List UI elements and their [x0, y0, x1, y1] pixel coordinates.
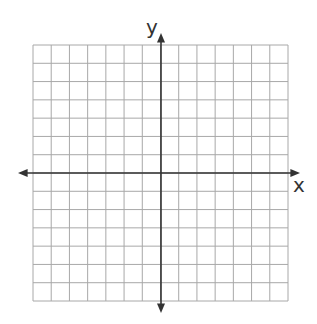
axes [18, 33, 300, 313]
coordinate-plane [0, 0, 317, 324]
x-axis-label: x [293, 175, 305, 195]
x-axis-left-arrow-icon [18, 169, 28, 177]
y-axis-label: y [146, 17, 158, 37]
y-axis-up-arrow-icon [157, 33, 165, 43]
y-axis-down-arrow-icon [157, 303, 165, 313]
